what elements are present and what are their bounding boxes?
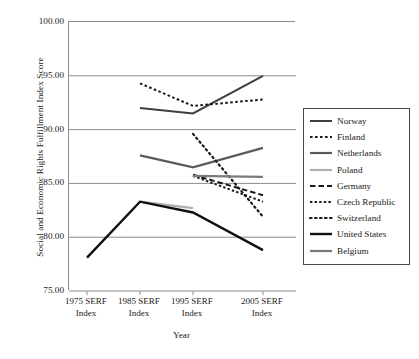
legend-swatch-icon [309, 147, 333, 159]
legend-swatch-icon [309, 196, 333, 208]
series-line-united-states [87, 202, 263, 258]
legend-label: Czech Republic [337, 197, 395, 207]
legend-label: Germany [337, 181, 371, 191]
legend-label: Norway [337, 116, 367, 126]
plot-area [68, 21, 295, 290]
legend-item-czech-republic[interactable]: Czech Republic [309, 194, 405, 210]
y-tick-label: 80.00 [18, 231, 64, 241]
x-tick-label: 2005 SERFIndex [225, 296, 299, 319]
series-line-belgium [193, 176, 263, 177]
legend: NorwayFinlandNetherlandsPolandGermanyCze… [303, 108, 410, 265]
x-tick-label-line2: Index [225, 308, 299, 320]
legend-swatch-icon [309, 245, 333, 257]
y-tick-label: 90.00 [18, 124, 64, 134]
legend-label: Netherlands [337, 148, 381, 158]
y-tick-label: 100.00 [18, 16, 64, 26]
legend-item-norway[interactable]: Norway [309, 113, 405, 129]
legend-swatch-icon [309, 180, 333, 192]
x-tick-label-line2: Index [155, 308, 229, 320]
legend-label: Belgium [337, 246, 369, 256]
legend-label: United States [337, 229, 386, 239]
x-tick-label-line1: 2005 SERF [225, 296, 299, 308]
legend-item-germany[interactable]: Germany [309, 178, 405, 194]
series-line-norway [140, 76, 263, 114]
legend-item-finland[interactable]: Finland [309, 129, 405, 145]
legend-swatch-icon [309, 115, 333, 127]
x-axis-title: Year [68, 330, 295, 340]
legend-swatch-icon [309, 164, 333, 176]
series-line-netherlands [140, 148, 263, 167]
x-tick-label-line1: 1995 SERF [155, 296, 229, 308]
chart-container: Social and Economic Rights Fulfillment I… [0, 0, 419, 359]
legend-swatch-icon [309, 131, 333, 143]
legend-swatch-icon [309, 212, 333, 224]
plot-svg [69, 22, 296, 291]
y-tick-label: 95.00 [18, 70, 64, 80]
y-tick-label: 75.00 [18, 285, 64, 295]
legend-label: Switzerland [337, 213, 381, 223]
y-tick-label: 85.00 [18, 177, 64, 187]
legend-item-netherlands[interactable]: Netherlands [309, 145, 405, 161]
legend-item-poland[interactable]: Poland [309, 162, 405, 178]
legend-item-switzerland[interactable]: Switzerland [309, 210, 405, 226]
legend-swatch-icon [309, 228, 333, 240]
legend-item-belgium[interactable]: Belgium [309, 243, 405, 259]
legend-label: Poland [337, 165, 363, 175]
series-line-czech-republic [193, 176, 263, 202]
legend-label: Finland [337, 132, 365, 142]
legend-item-united-states[interactable]: United States [309, 226, 405, 242]
x-tick-label: 1995 SERFIndex [155, 296, 229, 319]
